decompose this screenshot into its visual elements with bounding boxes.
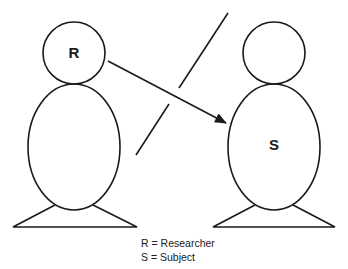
researcher-figure: R <box>13 22 137 227</box>
researcher-letter: R <box>69 44 80 61</box>
observation-arrow <box>108 61 226 123</box>
barrier-line-upper <box>179 13 228 88</box>
researcher-body <box>28 84 120 210</box>
subject-letter: S <box>269 136 279 153</box>
legend: R = Researcher S = Subject <box>141 237 215 263</box>
subject-figure: S <box>213 22 335 227</box>
barrier-line <box>136 13 228 155</box>
legend-item-researcher: R = Researcher <box>141 237 215 249</box>
subject-base <box>213 205 335 227</box>
subject-head <box>243 22 305 84</box>
barrier-line-lower <box>136 104 169 155</box>
researcher-base <box>13 205 137 227</box>
legend-item-subject: S = Subject <box>141 251 195 263</box>
diagram-canvas: R S R = Researcher S = Subject <box>0 0 348 269</box>
